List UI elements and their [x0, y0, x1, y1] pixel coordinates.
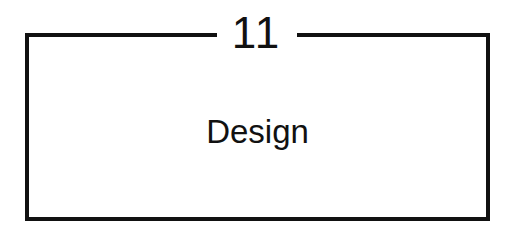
section-title: Design — [25, 112, 490, 152]
frame-top-border-right — [297, 33, 490, 37]
section-number: 11 — [216, 8, 297, 58]
frame-top-border-left — [25, 33, 217, 37]
